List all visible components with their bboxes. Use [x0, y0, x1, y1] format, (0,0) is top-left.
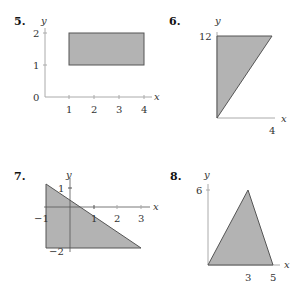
- y-axis-label: y: [65, 169, 72, 180]
- shaded-rectangle: [69, 33, 144, 65]
- problem-number-7: 7.: [14, 170, 25, 183]
- problem-number-5: 5.: [14, 15, 25, 28]
- problem-number-6: 6.: [169, 15, 180, 28]
- x-tick-2: 2: [114, 213, 120, 224]
- x-tick-1: 1: [66, 104, 72, 115]
- x-tick-2: 2: [91, 104, 97, 115]
- x-axis-label: x: [154, 91, 160, 102]
- y-axis-label: y: [203, 169, 210, 180]
- y-axis-label: y: [40, 15, 47, 26]
- x-tick-neg1: −1: [34, 213, 49, 224]
- y-tick-1: 1: [33, 60, 39, 71]
- x-tick-4: 4: [141, 104, 147, 115]
- y-tick-12: 12: [199, 31, 212, 42]
- x-axis-label: x: [281, 113, 287, 124]
- diagram-6: 6. y x 12 4: [169, 15, 287, 136]
- y-tick-neg2: −2: [49, 246, 64, 257]
- shaded-triangle: [217, 36, 272, 118]
- y-tick-0: 0: [33, 92, 39, 103]
- x-tick-3: 3: [116, 104, 122, 115]
- y-tick-1: 1: [58, 183, 64, 194]
- x-tick-4: 4: [269, 125, 275, 136]
- figure-canvas: 5. y x 2 1 0 1 2 3 4 6. y x 12 4 7. y x: [0, 0, 306, 300]
- diagram-5: 5. y x 2 1 0 1 2 3 4: [14, 15, 160, 115]
- x-tick-5: 5: [270, 272, 276, 283]
- x-axis-label: x: [153, 201, 159, 212]
- x-tick-3: 3: [138, 213, 144, 224]
- shaded-triangle: [208, 190, 273, 265]
- x-tick-3: 3: [245, 272, 251, 283]
- x-tick-1: 1: [91, 213, 97, 224]
- diagram-7: 7. y x 1 −2 −1 1 2 3: [14, 169, 159, 257]
- y-axis-label: y: [214, 15, 221, 26]
- problem-number-8: 8.: [170, 170, 181, 183]
- y-tick-2: 2: [33, 28, 39, 39]
- x-axis-label: x: [284, 259, 290, 270]
- diagram-8: 8. y x 6 3 5: [170, 169, 290, 283]
- y-tick-6: 6: [196, 185, 202, 196]
